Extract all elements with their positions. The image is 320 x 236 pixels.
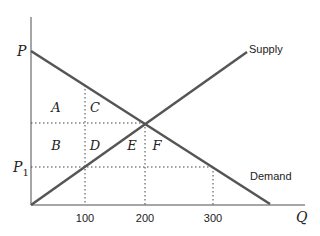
demand-label: Demand: [250, 170, 292, 182]
p1-label: P1: [12, 159, 29, 178]
region-e: E: [126, 138, 137, 153]
x-axis-label: Q: [296, 209, 308, 225]
tick-100: 100: [76, 212, 94, 224]
tick-300: 300: [204, 212, 222, 224]
tick-200: 200: [136, 212, 154, 224]
supply-curve: [31, 52, 247, 205]
region-a: A: [50, 100, 60, 115]
supply-demand-chart: P Q P1 100 200 300 Supply Demand A C B D…: [0, 0, 320, 236]
region-d: D: [89, 138, 101, 153]
region-b: B: [50, 138, 61, 153]
p1-label-sub: 1: [22, 167, 28, 178]
supply-label: Supply: [249, 43, 283, 55]
region-f: F: [151, 138, 162, 153]
y-axis-label: P: [16, 43, 27, 59]
region-c: C: [90, 100, 100, 115]
p1-label-main: P: [12, 159, 23, 175]
